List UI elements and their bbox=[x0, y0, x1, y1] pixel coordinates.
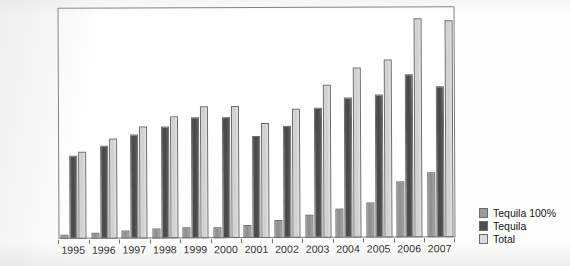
bar[interactable] bbox=[152, 229, 160, 239]
bar[interactable] bbox=[353, 68, 362, 238]
bar-group bbox=[149, 7, 181, 238]
bar-group bbox=[363, 6, 395, 237]
bar[interactable] bbox=[335, 208, 343, 238]
legend-label-total: Total bbox=[493, 233, 515, 245]
chart-figure: 1995199619971998199920002001200220032004… bbox=[0, 0, 570, 266]
legend-item-total[interactable]: Total bbox=[479, 233, 556, 245]
bar[interactable] bbox=[78, 152, 86, 239]
bar-group bbox=[332, 7, 364, 238]
bar[interactable] bbox=[161, 126, 169, 238]
x-axis: 1995199619971998199920002001200220032004… bbox=[58, 238, 455, 260]
bar[interactable] bbox=[213, 227, 221, 238]
bar-group bbox=[119, 7, 151, 238]
bar[interactable] bbox=[61, 235, 69, 239]
legend-label-tequila-100: Tequila 100% bbox=[493, 207, 556, 219]
bar[interactable] bbox=[396, 182, 404, 238]
bar-group bbox=[57, 8, 89, 239]
legend-label-tequila: Tequila bbox=[493, 220, 526, 232]
bar-group bbox=[302, 7, 334, 238]
bar-group bbox=[210, 7, 242, 238]
bar[interactable] bbox=[244, 225, 252, 238]
bar-group bbox=[88, 8, 120, 239]
bar[interactable] bbox=[130, 134, 138, 238]
bar-group bbox=[271, 7, 303, 238]
bar-group bbox=[393, 6, 425, 237]
bar[interactable] bbox=[122, 231, 130, 239]
chart-legend: Tequila 100% Tequila Total bbox=[479, 207, 556, 245]
bar[interactable] bbox=[344, 97, 353, 237]
bar-group bbox=[180, 7, 212, 238]
bar[interactable] bbox=[261, 123, 270, 238]
bar[interactable] bbox=[322, 85, 331, 238]
bar[interactable] bbox=[69, 156, 77, 239]
legend-item-tequila[interactable]: Tequila bbox=[479, 220, 556, 232]
bar[interactable] bbox=[222, 117, 231, 238]
bar[interactable] bbox=[427, 172, 435, 237]
legend-swatch-tequila bbox=[479, 221, 488, 231]
bar[interactable] bbox=[139, 126, 147, 238]
bar-group bbox=[424, 6, 456, 237]
bar[interactable] bbox=[292, 109, 301, 238]
bar[interactable] bbox=[170, 116, 179, 238]
bar[interactable] bbox=[436, 86, 445, 237]
bar[interactable] bbox=[383, 59, 392, 237]
bar[interactable] bbox=[414, 18, 423, 237]
bar[interactable] bbox=[375, 94, 384, 237]
bar-group bbox=[241, 7, 273, 238]
bar[interactable] bbox=[100, 145, 108, 238]
plot-area bbox=[57, 6, 455, 239]
bar[interactable] bbox=[200, 106, 209, 238]
bar[interactable] bbox=[366, 202, 374, 237]
bar[interactable] bbox=[183, 227, 191, 238]
bar[interactable] bbox=[283, 126, 291, 238]
bar[interactable] bbox=[109, 139, 117, 239]
bar[interactable] bbox=[191, 117, 200, 238]
legend-swatch-tequila-100 bbox=[479, 208, 488, 218]
bar[interactable] bbox=[313, 108, 322, 238]
legend-swatch-total bbox=[479, 234, 488, 244]
legend-item-tequila-100[interactable]: Tequila 100% bbox=[479, 207, 556, 219]
bar[interactable] bbox=[305, 215, 313, 238]
bar[interactable] bbox=[231, 106, 240, 238]
bar[interactable] bbox=[91, 232, 99, 238]
bar[interactable] bbox=[253, 136, 261, 238]
bar[interactable] bbox=[405, 74, 414, 237]
bar[interactable] bbox=[444, 20, 453, 237]
x-tick bbox=[454, 238, 455, 242]
x-tick-label: 2007 bbox=[420, 242, 460, 254]
bar[interactable] bbox=[274, 220, 282, 238]
